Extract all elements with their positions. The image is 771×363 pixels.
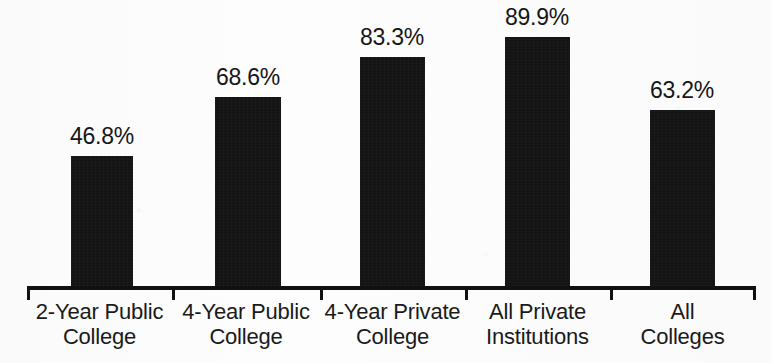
x-axis-category-label-line1: 2-Year Public xyxy=(36,299,163,324)
bar-chart: 46.8% 68.6% 83.3% 89.9% 63.2% 2-Year Pub… xyxy=(0,0,771,363)
x-axis-line xyxy=(27,286,756,290)
bar-4-year-private-college xyxy=(360,57,425,286)
x-axis-category-label-line2: College xyxy=(172,324,320,349)
x-axis-category-label-line2: Institutions xyxy=(465,324,610,349)
x-axis-category-label-line1: All Private xyxy=(489,299,586,324)
plot-area: 46.8% 68.6% 83.3% 89.9% 63.2% 2-Year Pub… xyxy=(0,0,771,363)
bar-value-label: 83.3% xyxy=(342,25,442,49)
x-axis-category-label-line2: Colleges xyxy=(610,324,755,349)
x-axis-category-label-line2: College xyxy=(320,324,465,349)
x-axis-category-label: 4-Year Private College xyxy=(320,299,465,349)
x-axis-category-label-line1: 4-Year Public xyxy=(182,299,309,324)
bar-4-year-public-college xyxy=(215,97,281,286)
bar-value-label: 46.8% xyxy=(52,124,152,148)
bar-value-label: 68.6% xyxy=(198,65,298,89)
x-axis-category-label: 2-Year Public College xyxy=(27,299,172,349)
x-axis-category-label-line1: 4-Year Private xyxy=(325,299,461,324)
bar-value-label: 63.2% xyxy=(632,78,732,102)
x-axis-category-label: 4-Year Public College xyxy=(172,299,320,349)
bar-all-private-institutions xyxy=(505,37,570,286)
x-axis-category-label: All Colleges xyxy=(610,299,755,349)
bar-2-year-public-college xyxy=(71,156,133,286)
x-axis-category-label-line1: All xyxy=(671,299,695,324)
bar-all-colleges xyxy=(650,110,715,286)
bar-value-label: 89.9% xyxy=(487,5,587,29)
x-axis-category-label-line2: College xyxy=(27,324,172,349)
x-axis-category-label: All Private Institutions xyxy=(465,299,610,349)
